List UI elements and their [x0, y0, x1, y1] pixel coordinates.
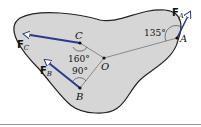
angle-label-B: 90° [72, 66, 88, 76]
label-O: O [101, 61, 109, 72]
label-A: A [179, 33, 187, 44]
label-C: C [75, 30, 83, 41]
angle-label-C: 160° [68, 54, 90, 64]
point-B [78, 86, 81, 89]
label-B: B [75, 91, 83, 102]
rigid-body-outline [14, 10, 181, 113]
point-A [175, 36, 178, 39]
point-O [102, 56, 105, 59]
angle-label-A: 135° [144, 28, 166, 38]
point-C [78, 41, 81, 44]
rigid-body-diagram: C O B A FC FB FA 135° 160° 90° [0, 0, 201, 127]
